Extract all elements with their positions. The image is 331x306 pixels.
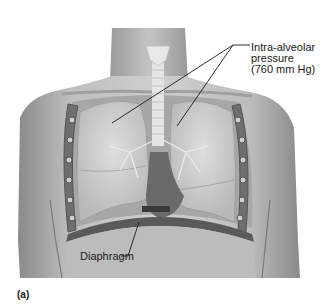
diaphragm-label: Diaphragm <box>80 251 134 262</box>
panel-label: (a) <box>17 289 29 300</box>
trachea <box>152 62 164 146</box>
intra-alveolar-pressure-label: Intra-alveolar pressure (760 mm Hg) <box>251 42 315 75</box>
